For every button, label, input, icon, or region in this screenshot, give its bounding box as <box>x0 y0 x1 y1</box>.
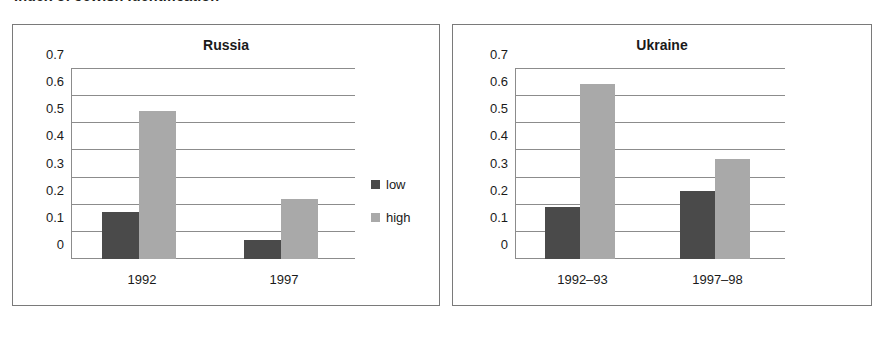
y-axis-tick-label: 0.5 <box>490 101 508 116</box>
bar-high <box>281 199 318 259</box>
y-axis-tick-label: 0.5 <box>46 101 64 116</box>
legend-item-low: low <box>371 177 411 192</box>
x-axis-category-label: 1992 <box>71 272 213 287</box>
y-axis-tick-label: 0.3 <box>46 155 64 170</box>
y-axis-tick-label: 0 <box>501 237 508 252</box>
chart-panel-ukraine: Ukraine 00.10.20.30.40.50.60.71992–93199… <box>452 24 872 306</box>
bar-group: 1992 <box>71 69 213 259</box>
bar-group: 1997 <box>213 69 355 259</box>
x-axis-category-label: 1997–98 <box>650 272 785 287</box>
y-axis-tick-label: 0.6 <box>46 74 64 89</box>
y-axis-tick-label: 0.1 <box>46 209 64 224</box>
bar-group: 1997–98 <box>650 69 785 259</box>
bar-high <box>139 111 176 259</box>
bar-high <box>715 159 750 259</box>
chart-title-ukraine: Ukraine <box>453 37 871 53</box>
y-axis-tick-label: 0.4 <box>46 128 64 143</box>
plot-area-ukraine: 00.10.20.30.40.50.60.71992–931997–98 <box>515 69 785 259</box>
x-axis-category-label: 1997 <box>213 272 355 287</box>
legend-swatch-high-icon <box>371 213 380 222</box>
y-axis-tick-label: 0.3 <box>490 155 508 170</box>
y-axis-tick-label: 0.2 <box>490 182 508 197</box>
y-axis-tick-label: 0.7 <box>490 47 508 62</box>
y-axis-tick-label: 0 <box>57 237 64 252</box>
legend-label-low: low <box>386 177 406 192</box>
figure-title: Index of Jewish Identification <box>14 0 219 4</box>
bar-group: 1992–93 <box>515 69 650 259</box>
bar-low <box>545 207 580 259</box>
chart-title-russia: Russia <box>13 37 439 53</box>
y-axis-tick-label: 0.7 <box>46 47 64 62</box>
legend-label-high: high <box>386 210 411 225</box>
y-axis-tick-label: 0.1 <box>490 209 508 224</box>
legend-russia: low high <box>371 177 411 243</box>
bar-high <box>580 84 615 259</box>
y-axis-tick-label: 0.2 <box>46 182 64 197</box>
legend-swatch-low-icon <box>371 180 380 189</box>
bar-low <box>102 212 139 260</box>
plot-area-russia: 00.10.20.30.40.50.60.719921997 <box>71 69 355 259</box>
y-axis-tick-label: 0.4 <box>490 128 508 143</box>
x-axis-category-label: 1992–93 <box>515 272 650 287</box>
bar-low <box>244 240 281 259</box>
chart-panel-russia: Russia 00.10.20.30.40.50.60.719921997 lo… <box>12 24 440 306</box>
y-axis-tick-label: 0.6 <box>490 74 508 89</box>
legend-item-high: high <box>371 210 411 225</box>
bar-low <box>680 191 715 259</box>
